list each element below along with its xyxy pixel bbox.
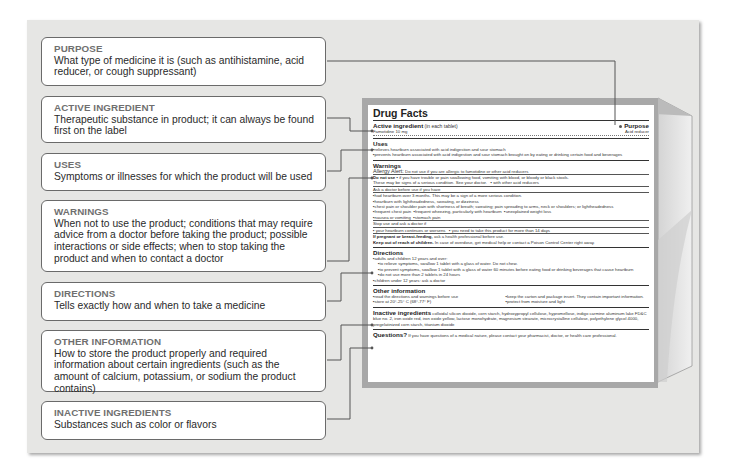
connector-lines: [0, 0, 729, 474]
